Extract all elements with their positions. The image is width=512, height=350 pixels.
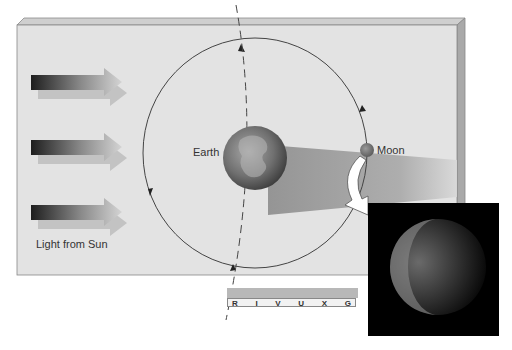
eclipsed-moon-photo xyxy=(368,203,499,336)
moon-body xyxy=(360,143,374,157)
em-spectrum-bar: R I V U X G xyxy=(227,288,358,309)
band-gamma: G xyxy=(345,299,351,306)
moon-photo-image xyxy=(368,203,499,336)
band-xray: X xyxy=(322,299,327,306)
moon-label: Moon xyxy=(377,144,405,156)
spectrum-labels: R I V U X G xyxy=(227,298,356,307)
band-infrared: I xyxy=(255,299,257,306)
band-radio: R xyxy=(232,299,238,306)
spectrum-wave-band xyxy=(227,288,358,298)
band-ultraviolet: U xyxy=(298,299,304,306)
band-visible: V xyxy=(275,299,280,306)
sunlight-label: Light from Sun xyxy=(36,238,108,250)
earth-label: Earth xyxy=(193,146,219,158)
panel-top-face xyxy=(17,18,465,25)
